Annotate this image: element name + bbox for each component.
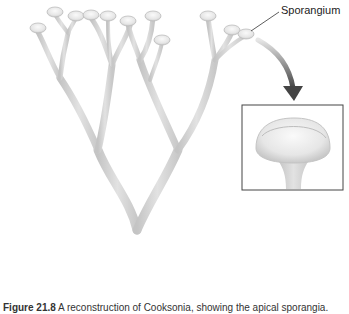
inset-box xyxy=(242,105,343,190)
sporangium xyxy=(100,11,116,21)
stem-system xyxy=(38,14,245,292)
stem-branch xyxy=(150,42,162,80)
sporangium xyxy=(120,16,136,26)
stem-branch xyxy=(98,150,137,230)
sporangium xyxy=(154,35,170,45)
stem-branch xyxy=(112,26,130,65)
stem-branch xyxy=(208,18,215,60)
stem-branch xyxy=(140,18,153,60)
sporangium xyxy=(30,23,46,33)
sporangium-label: Sporangium xyxy=(281,4,340,16)
sporangium xyxy=(200,11,216,21)
stem-branch xyxy=(137,150,178,230)
stem-branch xyxy=(60,33,68,78)
sporangium xyxy=(68,11,84,21)
zoom-arrow xyxy=(258,40,303,101)
stem-branch xyxy=(178,60,215,150)
sporangium xyxy=(224,25,240,35)
sporangium xyxy=(145,11,161,21)
inset-sporangium xyxy=(256,118,330,163)
stem-branch xyxy=(140,60,178,150)
caption-number: Figure 21.8 xyxy=(3,302,56,313)
stem-branch xyxy=(98,65,112,150)
stem-branch xyxy=(128,24,140,60)
stem-branch xyxy=(60,78,98,150)
figure-caption: Figure 21.8 A reconstruction of Cooksoni… xyxy=(3,302,328,314)
stem-branch xyxy=(38,32,60,78)
leader-line xyxy=(251,12,279,31)
sporangium xyxy=(47,7,63,17)
sporangium xyxy=(83,10,99,20)
caption-text: A reconstruction of Cooksonia, showing t… xyxy=(58,302,328,313)
arrow-head-icon xyxy=(283,86,303,101)
